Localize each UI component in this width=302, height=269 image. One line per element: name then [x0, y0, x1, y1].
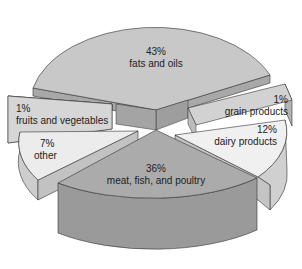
label-grain-name: grain products [225, 106, 288, 117]
label-fruit-name: fruits and vegetables [16, 115, 108, 126]
label-grain-pct: 1% [274, 94, 289, 105]
label-other-pct: 7% [40, 138, 55, 149]
label-other-name: other [34, 150, 57, 161]
label-dairy-name: dairy products [214, 136, 277, 147]
label-fruit-pct: 1% [16, 103, 31, 114]
label-dairy-pct: 12% [257, 124, 277, 135]
label-meat-name: meat, fish, and poultry [107, 175, 205, 186]
label-fats-pct: 43% [146, 46, 166, 57]
label-meat-pct: 36% [146, 163, 166, 174]
pie-chart: 43% fats and oils 1% grain products 12% … [0, 0, 302, 269]
label-fats-name: fats and oils [129, 58, 182, 69]
